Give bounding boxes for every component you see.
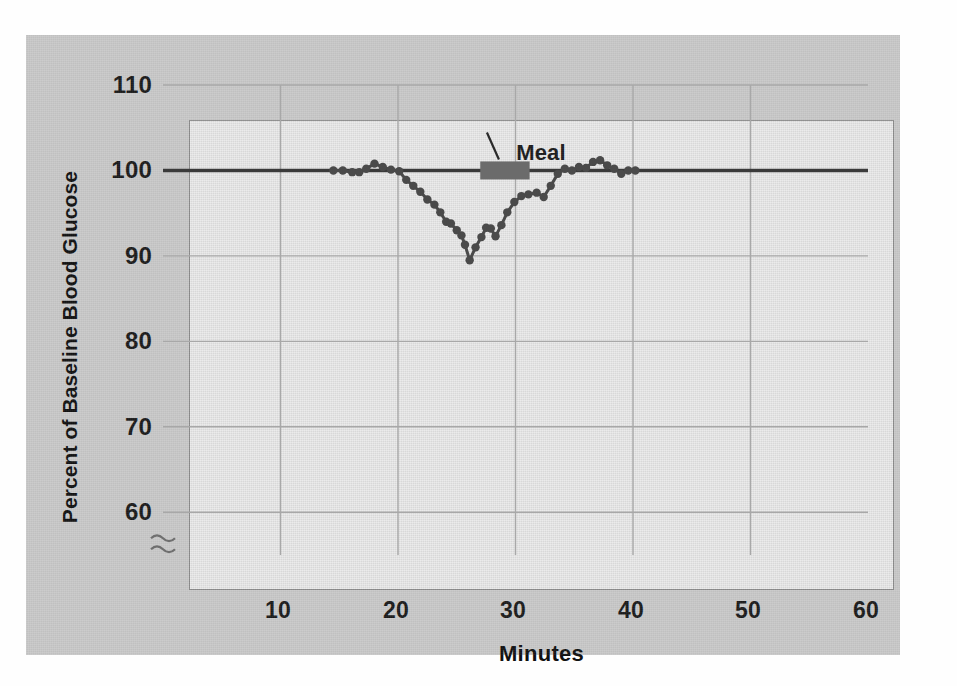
meal-leader-line — [487, 132, 499, 159]
meal-bar — [480, 161, 529, 179]
chart-svg — [0, 0, 957, 686]
gridlines — [163, 85, 868, 555]
y-axis-break-icon — [151, 535, 175, 552]
figure-root: Percent of Baseline Blood Glucose Minute… — [0, 0, 957, 686]
